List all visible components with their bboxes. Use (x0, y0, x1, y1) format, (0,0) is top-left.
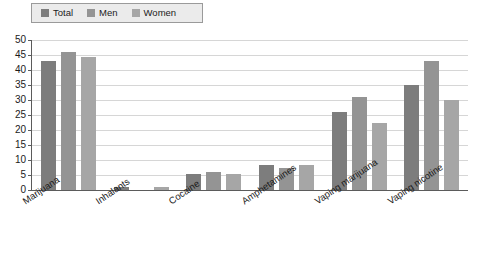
legend-label-men: Men (99, 8, 117, 18)
legend-swatch-women (132, 9, 140, 17)
y-axis-tick-label: 25 (15, 110, 26, 120)
bar-group (32, 40, 105, 190)
legend-item-men[interactable]: Men (87, 8, 117, 18)
bar[interactable] (299, 165, 314, 191)
y-axis-tick-label: 30 (15, 95, 26, 105)
bar[interactable] (444, 100, 459, 190)
bar[interactable] (154, 187, 169, 190)
x-axis-labels: MarijuanaInhalantsCocaineAmphetaminesVap… (31, 192, 468, 268)
x-axis-label-cell: Cocaine (177, 192, 250, 268)
y-axis-tick-label: 20 (15, 125, 26, 135)
legend-item-total[interactable]: Total (41, 8, 73, 18)
x-axis-label-cell: Vaping nicotine (395, 192, 468, 268)
bar[interactable] (404, 85, 419, 190)
y-axis-tick-label: 45 (15, 50, 26, 60)
x-axis-label-cell: Amphetamines (249, 192, 322, 268)
legend-item-women[interactable]: Women (132, 8, 177, 18)
bar[interactable] (226, 174, 241, 191)
chart-legend: Total Men Women (31, 3, 203, 23)
y-axis-tick-label: 50 (15, 35, 26, 45)
bar[interactable] (81, 57, 96, 191)
bar[interactable] (206, 172, 221, 190)
y-axis-tick-label: 15 (15, 140, 26, 150)
y-axis-tick-label: 10 (15, 155, 26, 165)
bar-group (105, 40, 178, 190)
bar-chart: Total Men Women 50454035302520151050 Mar… (0, 0, 484, 268)
y-axis-tick-label: 40 (15, 65, 26, 75)
x-axis-label-cell: Marijuana (31, 192, 104, 268)
bar[interactable] (41, 61, 56, 190)
legend-label-total: Total (53, 8, 73, 18)
x-axis-label-cell: Inhalants (104, 192, 177, 268)
y-axis-tick-label: 5 (20, 170, 26, 180)
bar-groups (32, 40, 468, 190)
legend-label-women: Women (144, 8, 177, 18)
bar-group (177, 40, 250, 190)
y-axis-tick-label: 35 (15, 80, 26, 90)
bar[interactable] (61, 52, 76, 190)
x-axis-label-cell: Vaping marijuana (322, 192, 395, 268)
legend-swatch-men (87, 9, 95, 17)
plot-area: 50454035302520151050 (31, 40, 468, 191)
legend-swatch-total (41, 9, 49, 17)
